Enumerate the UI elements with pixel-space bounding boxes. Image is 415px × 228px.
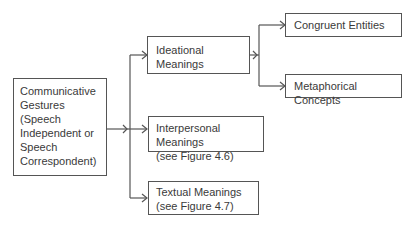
interpersonal-line: (see Figure 4.6) [156,149,256,163]
interpersonal-line: Interpersonal Meanings [156,121,256,149]
root-line: Speech [20,140,100,154]
root-line: Independent or [20,126,100,140]
ideational-label: Ideational Meanings [156,43,241,71]
ideational-meanings-box: Ideational Meanings [147,36,250,74]
root-line: Gestures [20,98,100,112]
textual-line: Textual Meanings [156,185,251,199]
root-line: (Speech [20,112,100,126]
congruent-label: Congruent Entities [294,18,393,32]
metaphorical-label: Metaphorical Concepts [294,79,393,107]
interpersonal-meanings-box: Interpersonal Meanings (see Figure 4.6) [148,116,264,152]
textual-line: (see Figure 4.7) [156,199,251,213]
root-line: Correspondent) [20,154,100,168]
congruent-entities-box: Congruent Entities [285,13,402,37]
metaphorical-concepts-box: Metaphorical Concepts [285,74,402,98]
communicative-gestures-box: Communicative Gestures (Speech Independe… [13,78,107,176]
root-line: Communicative [20,84,100,98]
textual-meanings-box: Textual Meanings (see Figure 4.7) [148,181,259,215]
